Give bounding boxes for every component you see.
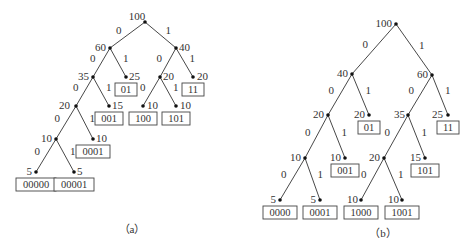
tree-node-dot: [158, 75, 162, 79]
edge-bit-label: 1: [398, 168, 404, 180]
tree-node-dot: [400, 198, 404, 202]
tree-edge: [352, 24, 396, 74]
node-weight-label: 10: [388, 193, 400, 205]
tree-node-dot: [74, 104, 78, 108]
edge-bit-label: 1: [70, 145, 76, 157]
edge-bit-label: 1: [173, 81, 179, 93]
edge-bit-label: 1: [106, 81, 112, 93]
edge-bit-label: 0: [73, 81, 79, 93]
node-weight-label: 20: [354, 108, 366, 120]
node-weight-label: 100: [376, 17, 393, 29]
huffman-code-label: 11: [188, 84, 198, 95]
node-weight-label: 10: [330, 151, 342, 163]
huffman-code-label: 1001: [392, 207, 413, 218]
edge-bit-label: 0: [361, 168, 367, 180]
node-weight-label: 35: [78, 70, 90, 82]
tree-node-dot: [107, 104, 111, 108]
edge-bit-label: 1: [419, 39, 425, 51]
node-weight-label: 35: [394, 108, 406, 120]
tree-node-dot: [108, 46, 112, 50]
tree-node-dot: [367, 113, 371, 117]
huffman-code-label: 100: [135, 113, 151, 124]
node-weight-label: 20: [59, 99, 71, 111]
tree-node-dot: [326, 113, 330, 117]
edge-bit-label: 0: [281, 168, 287, 180]
node-weight-label: 15: [112, 99, 124, 111]
node-weight-label: 100: [129, 10, 146, 22]
node-weight-label: 20: [163, 70, 175, 82]
tree-node-dot: [91, 75, 95, 79]
tree-node-dot: [359, 198, 363, 202]
tree-node-dot: [174, 104, 178, 108]
node-weight-label: 10: [180, 99, 192, 111]
figure-caption-a: （a）: [119, 223, 146, 235]
edge-bit-label: 1: [123, 52, 129, 64]
node-weight-label: 5: [271, 193, 277, 205]
node-weight-label: 60: [95, 41, 107, 53]
huffman-code-label: 00001: [61, 179, 87, 190]
edge-bit-label: 1: [190, 52, 196, 64]
tree-node-dot: [406, 113, 410, 117]
tree-node-dot: [394, 22, 398, 26]
tree-node-dot: [343, 156, 347, 160]
node-weight-label: 5: [27, 165, 33, 177]
edge-bit-label: 0: [305, 126, 311, 138]
node-weight-label: 40: [337, 67, 349, 79]
edge-bit-label: 0: [157, 52, 163, 64]
node-weight-label: 10: [41, 132, 53, 144]
node-weight-label: 25: [129, 70, 141, 82]
edge-bit-label: 0: [409, 84, 415, 96]
huffman-code-label: 0001: [83, 146, 104, 157]
edge-bit-label: 0: [363, 38, 369, 50]
edge-bit-label: 0: [329, 84, 335, 96]
huffman-tree-diagram: 0101010101010110060403525012020112015001…: [0, 0, 470, 246]
huffman-code-label: 01: [121, 84, 132, 95]
edge-bit-label: 0: [55, 112, 61, 124]
tree-node-dot: [91, 137, 95, 141]
tree-node-dot: [430, 73, 434, 77]
node-weight-label: 20: [369, 151, 381, 163]
node-weight-label: 25: [432, 108, 444, 120]
huffman-tree-a: 0101010101010110060403525012020112015001…: [16, 10, 209, 235]
tree-node-dot: [54, 137, 58, 141]
edge-bit-label: 0: [116, 24, 122, 36]
tree-node-dot: [278, 198, 282, 202]
edge-bit-label: 0: [140, 81, 146, 93]
tree-node-dot: [191, 75, 195, 79]
node-weight-label: 10: [347, 193, 359, 205]
huffman-code-label: 001: [101, 113, 117, 124]
tree-node-dot: [423, 156, 427, 160]
node-weight-label: 20: [197, 70, 209, 82]
huffman-code-label: 101: [417, 165, 433, 176]
huffman-code-label: 0000: [270, 207, 291, 218]
tree-node-dot: [124, 75, 128, 79]
tree-node-dot: [382, 156, 386, 160]
huffman-code-label: 001: [337, 165, 353, 176]
tree-node-dot: [141, 104, 145, 108]
huffman-code-label: 1000: [351, 207, 372, 218]
edge-bit-label: 1: [166, 24, 172, 36]
node-weight-label: 20: [313, 108, 325, 120]
edge-bit-label: 1: [366, 84, 372, 96]
node-weight-label: 15: [410, 151, 422, 163]
edge-bit-label: 0: [35, 145, 41, 157]
node-weight-label: 10: [290, 151, 302, 163]
figure-caption-b: （b）: [369, 227, 397, 239]
node-weight-label: 40: [179, 41, 191, 53]
huffman-code-label: 101: [168, 113, 184, 124]
node-weight-label: 10: [147, 99, 159, 111]
tree-node-dot: [34, 170, 38, 174]
edge-bit-label: 1: [422, 126, 428, 138]
huffman-code-label: 01: [364, 122, 375, 133]
tree-node-dot: [303, 156, 307, 160]
edge-bit-label: 1: [318, 168, 324, 180]
tree-node-dot: [318, 198, 322, 202]
tree-node-dot: [446, 113, 450, 117]
tree-node-dot: [72, 170, 76, 174]
node-weight-label: 60: [417, 68, 429, 80]
node-weight-label: 5: [311, 193, 317, 205]
tree-node-dot: [174, 46, 178, 50]
tree-edge: [145, 22, 176, 48]
huffman-code-label: 00000: [23, 179, 49, 190]
edge-bit-label: 1: [342, 126, 348, 138]
